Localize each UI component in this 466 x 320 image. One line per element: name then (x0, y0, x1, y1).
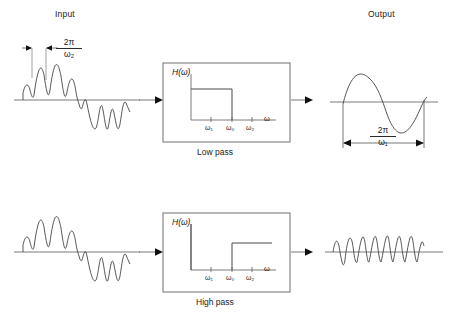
input-period-left-arrowhead (26, 45, 32, 51)
highpass-output-waveform (333, 236, 424, 265)
arrow-head-input-to-lowpass (155, 96, 163, 103)
lowpass-y-axis-label: H(ω) (172, 67, 190, 77)
input-period-denominator: ω₂ (56, 50, 82, 59)
output-period-denominator: ω₁ (370, 138, 396, 147)
highpass-tick-label-w2: ω₂ (246, 274, 254, 281)
lowpass-filter-caption: Low pass (197, 147, 233, 157)
input-period-numerator: 2π (56, 38, 82, 47)
diagram-canvas: Input Output (0, 0, 466, 320)
lowpass-response-curve (191, 89, 232, 120)
arrow-head-lowpass-to-output (305, 96, 313, 103)
highpass-tick-label-w0: ω₀ (226, 274, 234, 281)
highpass-filter-caption: High pass (196, 297, 234, 307)
highpass-x-axis-label: ω (264, 264, 270, 273)
lowpass-tick-label-w0: ω₀ (226, 124, 234, 131)
input-waveform-top (23, 64, 130, 129)
highpass-tick-label-w1: ω₁ (205, 274, 213, 281)
output-period-right-arrowhead (416, 140, 424, 147)
lowpass-x-axis-label: ω (264, 114, 270, 123)
input-period-annotation-top: 2π ω₂ (56, 38, 82, 59)
arrow-head-input-to-highpass (155, 248, 163, 255)
highpass-response-curve (191, 224, 272, 270)
arrow-head-highpass-to-output (305, 248, 313, 255)
input-waveform-bottom (23, 216, 130, 281)
output-period-numerator: 2π (370, 126, 396, 135)
output-period-annotation-top: 2π ω₁ (370, 126, 396, 147)
lowpass-tick-label-w2: ω₂ (246, 124, 254, 131)
input-period-right-arrowhead (46, 45, 52, 51)
output-period-left-arrowhead (343, 140, 351, 147)
lowpass-tick-label-w1: ω₁ (205, 124, 213, 131)
highpass-y-axis-label: H(ω) (172, 217, 190, 227)
